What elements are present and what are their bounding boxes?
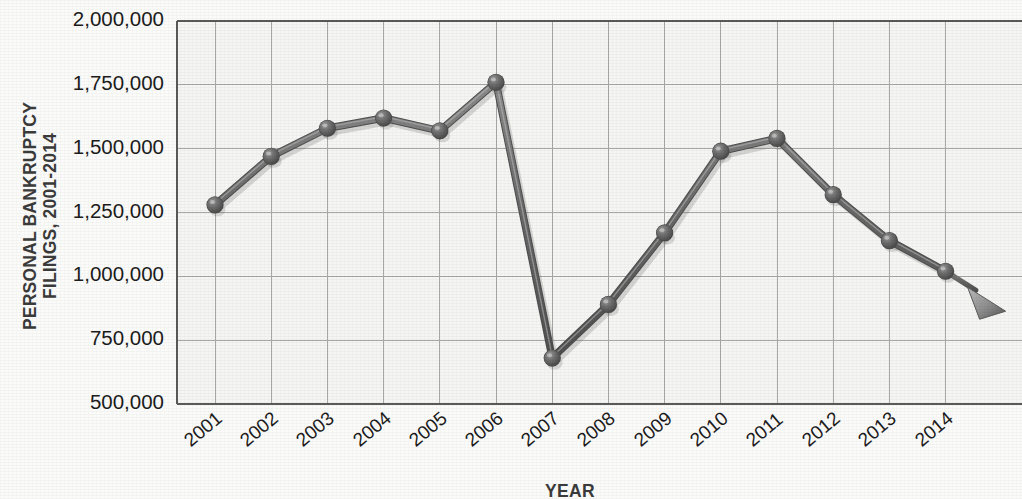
plot-area: 2001: 1,280,0002002: 1,470,0002003: 1,58… bbox=[0, 0, 1022, 499]
bankruptcy-filings-line-chart: PERSONAL BANKRUPTCY FILINGS, 2001-2014 2… bbox=[0, 0, 1022, 499]
